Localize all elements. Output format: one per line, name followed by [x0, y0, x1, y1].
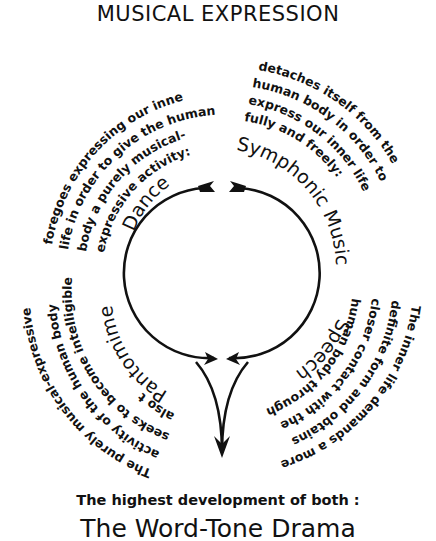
arrowhead-icon: [204, 352, 240, 365]
speech-quadrant: The inner life demands a more definite f…: [264, 297, 424, 472]
right-arc: [229, 188, 320, 358]
converging-arrow: [196, 362, 248, 452]
cycle-loop: [124, 188, 320, 358]
caption: The highest development of both :: [0, 492, 436, 508]
dance-quadrant: foregoes expressing our inner life in or…: [0, 0, 216, 254]
diagram-canvas: foregoes expressing our inner life in or…: [0, 0, 436, 541]
arrow-fletching-icon: [198, 181, 246, 192]
conclusion-title: The Word-Tone Drama: [0, 514, 436, 541]
symphonic-music-quadrant: detaches itself from the human body in o…: [235, 58, 403, 266]
